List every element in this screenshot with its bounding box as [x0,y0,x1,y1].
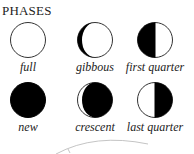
orbit-curve-decoration [0,0,194,154]
